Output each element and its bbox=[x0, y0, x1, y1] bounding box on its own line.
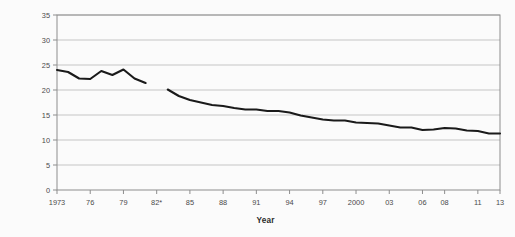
y-axis-ticks: 05101520253035 bbox=[42, 11, 57, 195]
svg-text:0: 0 bbox=[46, 186, 50, 195]
x-axis-title-wrap: Year bbox=[0, 216, 515, 225]
svg-text:30: 30 bbox=[42, 36, 50, 45]
svg-text:06: 06 bbox=[418, 198, 426, 207]
svg-text:94: 94 bbox=[285, 198, 293, 207]
svg-text:82*: 82* bbox=[151, 198, 162, 207]
x-axis-ticks: 1973767982*858891949720000306081113 bbox=[49, 190, 504, 207]
svg-text:13: 13 bbox=[496, 198, 504, 207]
svg-text:5: 5 bbox=[46, 161, 50, 170]
svg-text:15: 15 bbox=[42, 111, 50, 120]
union-membership-line-chart: Percentage of employed workers who are u… bbox=[0, 0, 515, 237]
svg-text:1973: 1973 bbox=[49, 198, 65, 207]
plot-frame bbox=[57, 15, 500, 190]
svg-text:08: 08 bbox=[441, 198, 449, 207]
svg-text:10: 10 bbox=[42, 136, 50, 145]
svg-text:25: 25 bbox=[42, 61, 50, 70]
svg-text:91: 91 bbox=[252, 198, 260, 207]
data-series bbox=[57, 70, 500, 134]
plot-area: 05101520253035 1973767982*85889194972000… bbox=[0, 0, 515, 237]
svg-text:76: 76 bbox=[86, 198, 94, 207]
svg-text:85: 85 bbox=[186, 198, 194, 207]
svg-text:35: 35 bbox=[42, 11, 50, 20]
svg-text:20: 20 bbox=[42, 86, 50, 95]
x-axis-title: Year bbox=[256, 216, 274, 225]
gridlines bbox=[57, 15, 500, 165]
svg-text:2000: 2000 bbox=[348, 198, 364, 207]
svg-text:79: 79 bbox=[119, 198, 127, 207]
svg-text:03: 03 bbox=[385, 198, 393, 207]
svg-text:88: 88 bbox=[219, 198, 227, 207]
svg-text:97: 97 bbox=[319, 198, 327, 207]
svg-text:11: 11 bbox=[474, 198, 482, 207]
